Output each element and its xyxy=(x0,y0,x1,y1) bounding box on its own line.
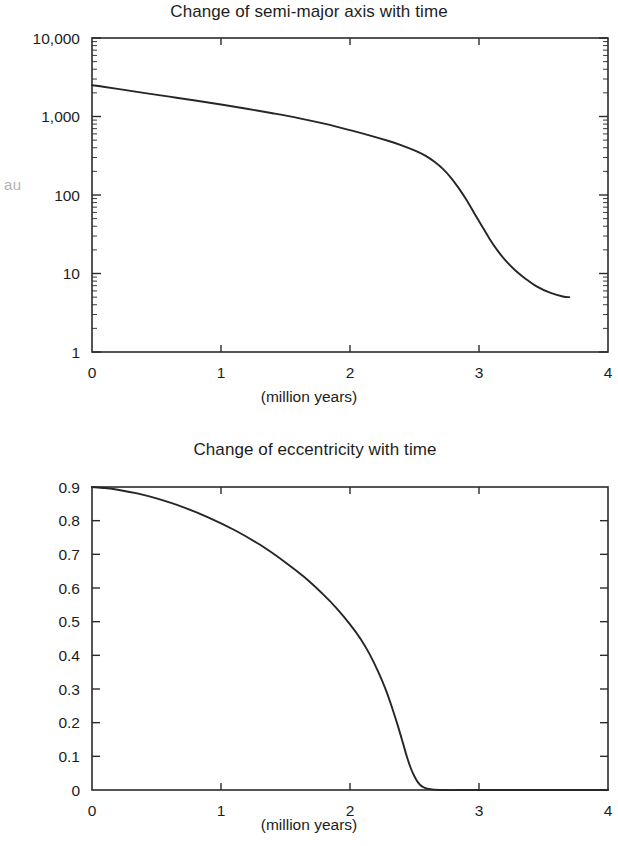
y-tick-label: 0.3 xyxy=(58,681,80,698)
y-tick-labels-semimajor: 1101001,00010,000 xyxy=(33,30,81,361)
plot-area-eccentricity: 00.10.20.30.40.50.60.70.80.9 01234 xyxy=(0,426,618,846)
y-tick-label: 0.2 xyxy=(58,714,80,731)
y-tick-label: 0.4 xyxy=(58,647,80,664)
x-axis-caption-semimajor: (million years) xyxy=(0,388,618,406)
figure-semimajor-axis: Change of semi-major axis with time au 1… xyxy=(0,0,618,420)
y-tick-label: 0.8 xyxy=(58,512,80,529)
y-tick-label: 100 xyxy=(54,187,80,204)
x-tick-label: 0 xyxy=(88,364,97,381)
y-tick-label: 0.7 xyxy=(58,546,80,563)
plot-frame-eccentricity xyxy=(92,487,608,790)
x-tick-label: 4 xyxy=(604,364,613,381)
y-tick-label: 0.5 xyxy=(58,613,80,630)
x-axis-caption-eccentricity: (million years) xyxy=(0,816,618,834)
y-tick-label: 0 xyxy=(71,782,80,799)
plot-area-semimajor: 1101001,00010,000 01234 xyxy=(0,0,618,420)
y-tick-label: 10,000 xyxy=(33,30,81,47)
data-curve-semimajor-axis xyxy=(92,85,569,297)
plot-frame-semimajor xyxy=(92,38,608,352)
y-tick-label: 0.1 xyxy=(58,748,80,765)
y-tick-labels-eccentricity: 00.10.20.30.40.50.60.70.80.9 xyxy=(58,479,80,799)
y-tick-label: 0.9 xyxy=(58,479,80,496)
axis-ticks-eccentricity xyxy=(92,487,608,790)
y-tick-label: 0.6 xyxy=(58,580,80,597)
y-tick-label: 1 xyxy=(71,344,80,361)
figure-eccentricity: Change of eccentricity with time Eccentr… xyxy=(0,426,618,846)
x-tick-label: 2 xyxy=(346,364,355,381)
axis-ticks-semimajor xyxy=(92,38,608,352)
x-tick-labels-semimajor: 01234 xyxy=(88,364,613,381)
y-tick-label: 10 xyxy=(63,265,81,282)
x-tick-label: 1 xyxy=(217,364,226,381)
y-tick-label: 1,000 xyxy=(41,108,80,125)
x-tick-label: 3 xyxy=(475,364,484,381)
data-curve-eccentricity xyxy=(92,487,608,790)
